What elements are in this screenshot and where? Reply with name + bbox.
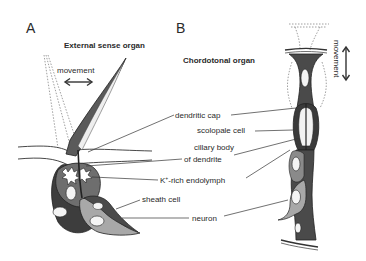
leader-endolymph-b (246, 150, 290, 178)
panel-a-title: External sense organ (64, 41, 145, 50)
bottom-attachment (281, 240, 318, 247)
neuron-nucleus (90, 216, 104, 226)
leader-dendritic-cap-b (231, 108, 296, 115)
panel-b-title: Chordotonal organ (183, 56, 255, 65)
vertical-double-arrow-icon (343, 47, 350, 80)
leader-dendritic-cap-a (88, 115, 174, 152)
trichogen-cell-nucleus (66, 186, 76, 200)
attachment-cell-nucleus (295, 223, 301, 233)
panel-b-movement-label: movement (332, 40, 341, 78)
sensory-organ-diagram: A External sense organ movement (0, 0, 366, 261)
leader-ciliary-body-b (234, 138, 300, 155)
chordotonal-neuron-nucleus (292, 190, 301, 204)
leader-neuron-b (224, 200, 288, 216)
scolopale-nucleus (292, 157, 300, 171)
horizontal-double-arrow-icon (65, 79, 92, 86)
label-ciliary-body-line2: of dendrite (184, 155, 222, 164)
bristle-lumen (78, 62, 124, 150)
socket-cell-nucleus (53, 207, 67, 217)
label-dendritic-cap: dendritic cap (175, 111, 221, 120)
sheath-cell-nucleus (93, 203, 103, 210)
leader-endolymph-a (92, 177, 158, 180)
cap-cell-nucleus (301, 69, 309, 87)
labels: dendritic cap scolopale cell cillary bod… (86, 108, 300, 223)
panel-b-movement-label-group: movement (332, 40, 341, 78)
top-attachment (285, 49, 327, 51)
label-sheath-cell: sheath cell (142, 195, 180, 204)
panel-a-letter: A (26, 20, 36, 36)
label-neuron: neuron (192, 214, 217, 223)
leader-sheath-cell (116, 200, 140, 209)
leader-scolopale-cell (255, 130, 293, 131)
panel-b-letter: B (176, 20, 185, 36)
top-attachment-inner (285, 52, 327, 54)
label-scolopale-cell: scolopale cell (197, 126, 245, 135)
label-ciliary-body-line1: cillary body (194, 143, 234, 152)
cuticle-lines (18, 146, 152, 165)
label-endolymph: K+-rich endolymph (160, 175, 225, 185)
panel-a-movement-label: movement (57, 66, 95, 75)
